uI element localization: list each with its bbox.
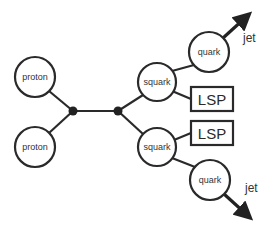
- quark-node-bottom: quark: [190, 160, 230, 200]
- jet-arrow-top: [223, 18, 245, 38]
- squark-node-bottom: squark: [138, 128, 176, 166]
- squark-label-top: squark: [143, 77, 171, 87]
- proton-label-bottom: proton: [22, 142, 48, 152]
- edge-squark-quark-top: [172, 65, 194, 71]
- edge-vertex-squark-bottom: [118, 111, 143, 134]
- squark-label-bottom: squark: [143, 142, 171, 152]
- lsp-label-bottom: LSP: [198, 125, 226, 142]
- lsp-label-top: LSP: [198, 91, 226, 108]
- jet-label-top: jet: [242, 31, 256, 45]
- edge-squark-lsp-top: [172, 91, 191, 99]
- jet-arrow-bottom: [224, 194, 246, 214]
- interaction-vertex-left: [69, 107, 78, 116]
- edge-squark-quark-bottom: [172, 158, 195, 167]
- quark-label-top: quark: [198, 47, 221, 57]
- lsp-box-top: LSP: [191, 87, 233, 111]
- edge-proton-top-vertex: [49, 91, 73, 111]
- edge-squark-lsp-bottom: [174, 133, 191, 140]
- proton-node-top: proton: [15, 57, 55, 97]
- jet-label-bottom: jet: [244, 181, 258, 195]
- proton-label-top: proton: [22, 72, 48, 82]
- interaction-vertex-right: [114, 107, 123, 116]
- quark-label-bottom: quark: [199, 175, 222, 185]
- proton-node-bottom: proton: [15, 127, 55, 167]
- lsp-box-bottom: LSP: [191, 121, 233, 145]
- edge-proton-bottom-vertex: [49, 111, 73, 133]
- quark-node-top: quark: [189, 32, 229, 72]
- feynman-diagram: proton proton squark squark quark quark …: [0, 0, 276, 230]
- squark-node-top: squark: [138, 63, 176, 101]
